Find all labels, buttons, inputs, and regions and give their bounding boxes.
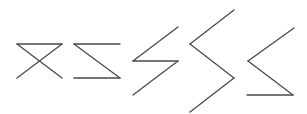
- lightning-shape: [133, 27, 178, 95]
- lightning-shape-segment-3: [133, 61, 178, 95]
- lightning-shape-segment-1: [133, 27, 178, 61]
- zigzag-shape-segment-1: [190, 10, 234, 44]
- z-shape: [74, 44, 120, 78]
- line-figure: [0, 0, 307, 114]
- zigzag-shape-segment-2: [190, 44, 234, 78]
- zigzag-shape-segment-3: [190, 78, 234, 112]
- angle-with-base-shape-segment-2: [248, 61, 293, 95]
- angle-with-base-shape-segment-1: [248, 28, 294, 61]
- figure-canvas: [0, 0, 307, 114]
- angle-with-base-shape: [247, 28, 294, 95]
- z-shape-segment-2: [74, 44, 120, 78]
- zigzag-shape: [190, 10, 234, 112]
- hourglass-shape: [17, 44, 62, 78]
